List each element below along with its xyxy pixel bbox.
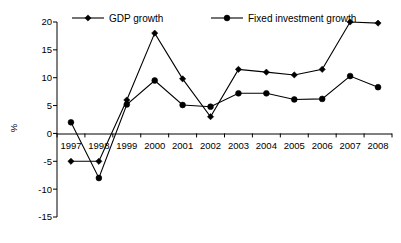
- y-axis-title-text: %: [8, 123, 19, 132]
- x-tick-label: 2008: [367, 140, 388, 151]
- legend-label: Fixed investment growth: [248, 13, 356, 24]
- x-tick-label: 2007: [340, 140, 361, 151]
- data-point-circle: [180, 102, 186, 108]
- y-tick-label: -10: [38, 184, 52, 195]
- data-point-circle: [291, 97, 297, 103]
- series-layer: [68, 19, 381, 181]
- y-tick-label: -5: [44, 156, 52, 167]
- x-tick-label: 2005: [284, 140, 305, 151]
- y-tick-label: 0: [47, 128, 52, 139]
- y-tick-label: 15: [41, 44, 52, 55]
- data-point-diamond: [85, 15, 91, 21]
- y-tick-label: 5: [47, 100, 52, 111]
- data-point-circle: [208, 104, 214, 110]
- legend-label: GDP growth: [109, 13, 163, 24]
- data-point-diamond: [68, 158, 74, 164]
- data-point-circle: [263, 90, 269, 96]
- data-point-diamond: [263, 69, 269, 75]
- data-point-circle: [236, 90, 242, 96]
- data-point-diamond: [291, 72, 297, 78]
- x-tick-label: 2003: [228, 140, 249, 151]
- data-point-diamond: [375, 20, 381, 26]
- data-point-diamond: [152, 30, 158, 36]
- y-axis-title: %: [8, 123, 19, 132]
- line-chart: % 20151050-5-10-15 199719981999200020012…: [0, 0, 401, 243]
- series-1: [68, 19, 381, 164]
- x-tick-label: 2000: [144, 140, 165, 151]
- chart-container: % 20151050-5-10-15 199719981999200020012…: [0, 0, 401, 243]
- y-tick-label: 20: [41, 16, 52, 27]
- data-point-circle: [152, 78, 158, 84]
- series-line: [71, 76, 378, 178]
- data-point-circle: [96, 175, 102, 181]
- y-tick-label: 10: [41, 72, 52, 83]
- data-point-circle: [224, 15, 230, 21]
- data-point-circle: [347, 73, 353, 79]
- data-point-diamond: [319, 66, 325, 72]
- data-point-circle: [68, 119, 74, 125]
- legend-item-2[interactable]: Fixed investment growth: [211, 13, 356, 24]
- data-point-diamond: [96, 158, 102, 164]
- x-tick-label: 2004: [256, 140, 277, 151]
- data-point-circle: [124, 102, 130, 108]
- legend-item-1[interactable]: GDP growth: [72, 13, 163, 24]
- x-tick-label: 2006: [312, 140, 333, 151]
- data-point-circle: [319, 96, 325, 102]
- y-tick-label-group: 20151050-5-10-15: [38, 16, 52, 222]
- x-tick-label: 1999: [116, 140, 137, 151]
- data-point-diamond: [235, 66, 241, 72]
- x-tick-label: 2002: [200, 140, 221, 151]
- y-tick-mark-group: [53, 22, 57, 217]
- x-tick-label: 1997: [60, 140, 81, 151]
- chart-legend: GDP growthFixed investment growth: [72, 13, 356, 24]
- y-tick-label: -15: [38, 211, 52, 222]
- data-point-circle: [375, 84, 381, 90]
- x-tick-label: 2001: [172, 140, 193, 151]
